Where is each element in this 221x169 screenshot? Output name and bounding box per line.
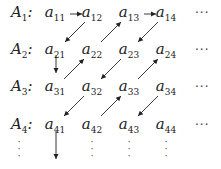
arrow-a42-a33 [101, 96, 121, 116]
arrow-a14-a23 [138, 22, 158, 42]
arrow-a32-a41 [64, 96, 84, 116]
arrow-a23-a32 [101, 59, 121, 79]
arrow-a31-a22 [64, 59, 84, 79]
arrow-a12-a21 [65, 22, 85, 42]
arrows-layer [0, 0, 221, 169]
arrow-a34-a43 [138, 96, 158, 116]
arrow-a33-a24 [138, 59, 158, 79]
arrow-a22-a13 [101, 22, 121, 42]
